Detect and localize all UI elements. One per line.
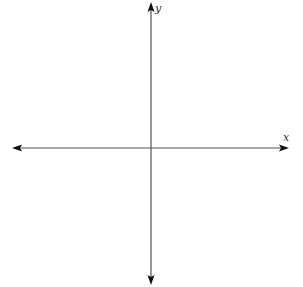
y-axis-label: y [155,3,161,14]
coordinate-plane: y x [0,0,303,287]
axes-graphic [0,0,303,287]
x-axis-label: x [283,132,289,143]
